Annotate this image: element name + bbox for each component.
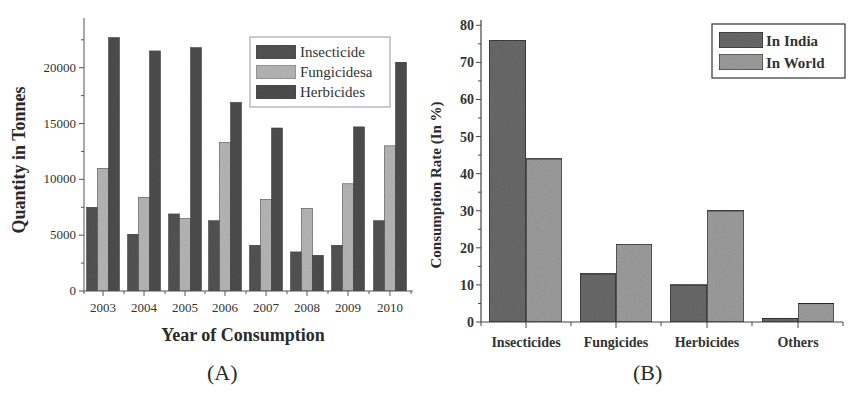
- legend-swatch: [256, 85, 296, 99]
- bar-insecticide-2005: [169, 214, 180, 291]
- legend-swatch: [719, 54, 763, 70]
- chart-b-label: (B): [633, 360, 662, 386]
- y-tick-label: 20000: [44, 60, 77, 75]
- bar-in-world-herbicides: [707, 211, 744, 322]
- x-tick-label: 2009: [335, 300, 361, 315]
- x-axis-title: Year of Consumption: [161, 325, 325, 345]
- bar-in-india-insecticides: [489, 40, 526, 322]
- bar-fungicidesa-2004: [139, 197, 150, 291]
- y-axis-title: Quantity in Tonnes: [9, 86, 29, 233]
- legend-label: Herbicides: [300, 84, 365, 100]
- bar-fungicidesa-2010: [385, 146, 396, 291]
- y-tick-label: 0: [467, 315, 474, 330]
- bar-herbicides-2009: [354, 127, 365, 291]
- bar-in-india-herbicides: [670, 285, 707, 322]
- x-tick-label: Fungicides: [584, 335, 649, 350]
- y-tick-label: 10: [460, 278, 474, 293]
- bar-herbicides-2010: [396, 62, 407, 291]
- bar-in-world-others: [798, 303, 834, 322]
- bar-fungicidesa-2006: [220, 143, 231, 291]
- bar-in-india-fungicides: [580, 274, 616, 322]
- bar-insecticide-2007: [250, 245, 261, 291]
- y-tick-label: 0: [70, 283, 77, 298]
- legend: In IndiaIn World: [712, 24, 845, 78]
- x-tick-label: 2004: [131, 300, 158, 315]
- chart-b-plot: 01020304050607080InsecticidesFungicidesH…: [430, 0, 862, 409]
- y-tick-label: 60: [460, 92, 474, 107]
- chart-b-panel: 01020304050607080InsecticidesFungicidesH…: [430, 0, 862, 409]
- bar-herbicides-2004: [150, 51, 161, 291]
- y-axis-title: Consumption Rate (In %): [430, 101, 445, 268]
- bar-insecticide-2010: [374, 221, 385, 291]
- legend-swatch: [256, 65, 296, 79]
- legend-label: Fungicidesa: [300, 64, 373, 80]
- y-tick-label: 5000: [50, 227, 76, 242]
- x-tick-label: 2006: [212, 300, 239, 315]
- bar-herbicides-2008: [313, 255, 324, 291]
- bar-insecticide-2009: [332, 245, 343, 291]
- x-tick-label: 2003: [90, 300, 116, 315]
- legend-label: Insecticide: [300, 44, 365, 60]
- bar-herbicides-2007: [272, 128, 283, 291]
- y-tick-label: 20: [460, 241, 474, 256]
- bar-fungicidesa-2005: [180, 218, 191, 291]
- x-tick-label: 2005: [172, 300, 198, 315]
- bar-fungicidesa-2003: [98, 168, 109, 291]
- y-tick-label: 15000: [44, 116, 77, 131]
- chart-a-label: (A): [207, 360, 238, 386]
- y-tick-label: 40: [460, 167, 474, 182]
- x-tick-label: 2008: [294, 300, 320, 315]
- x-tick-label: 2010: [377, 300, 403, 315]
- legend: InsecticideFungicidesaHerbicides: [250, 37, 390, 107]
- bar-insecticide-2004: [128, 234, 139, 291]
- legend-label: In India: [766, 33, 819, 49]
- x-tick-label: Herbicides: [675, 335, 740, 350]
- bar-insecticide-2008: [291, 252, 302, 291]
- y-tick-label: 30: [460, 204, 474, 219]
- y-tick-label: 50: [460, 130, 474, 145]
- bar-insecticide-2003: [87, 207, 98, 291]
- bar-herbicides-2006: [231, 102, 242, 291]
- y-tick-label: 70: [460, 55, 474, 70]
- y-tick-label: 10000: [44, 171, 77, 186]
- x-tick-label: 2007: [253, 300, 280, 315]
- bar-fungicidesa-2007: [261, 199, 272, 291]
- bar-insecticide-2006: [209, 221, 220, 291]
- bar-herbicides-2005: [191, 48, 202, 291]
- bar-herbicides-2003: [109, 38, 120, 291]
- legend-label: In World: [766, 55, 825, 71]
- legend-swatch: [719, 32, 763, 48]
- chart-a-plot: 0500010000150002000020032004200520062007…: [0, 0, 430, 409]
- bar-in-world-fungicides: [616, 244, 652, 322]
- x-tick-label: Others: [777, 335, 819, 350]
- y-tick-label: 80: [460, 18, 474, 33]
- x-tick-label: Insecticides: [491, 335, 561, 350]
- bar-fungicidesa-2008: [302, 208, 313, 291]
- legend-swatch: [256, 45, 296, 59]
- chart-a-panel: 0500010000150002000020032004200520062007…: [0, 0, 430, 409]
- bar-in-world-insecticides: [526, 159, 562, 322]
- bar-fungicidesa-2009: [343, 184, 354, 291]
